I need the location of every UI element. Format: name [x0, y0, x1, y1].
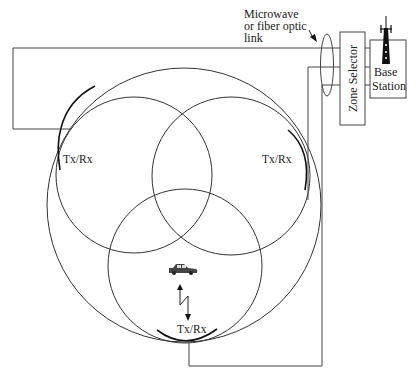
- base-station-label-line2: Station: [372, 79, 406, 93]
- lightning-bidirectional-arrow-icon: [177, 284, 191, 321]
- base-station-label-line1: Base: [374, 65, 397, 79]
- txrx-left-label: Tx/Rx: [63, 153, 93, 165]
- wire-bottom-zone: [189, 85, 340, 366]
- zone-cell-diagram: Zone Selector Base Station Microwave or …: [0, 0, 416, 377]
- txrx-bottom-label: Tx/Rx: [177, 323, 207, 335]
- wire-right-zone: [308, 67, 340, 200]
- zone-cell-top-right: [152, 97, 310, 255]
- zone-cell-top-left: [56, 97, 212, 253]
- txrx-right-label: Tx/Rx: [262, 153, 292, 165]
- zone-selector-label: Zone Selector: [346, 45, 360, 112]
- link-bundle-ellipse: [321, 34, 334, 96]
- car-icon: [169, 264, 197, 275]
- link-label-line3: link: [244, 31, 263, 45]
- wire-left-zone: [13, 48, 340, 129]
